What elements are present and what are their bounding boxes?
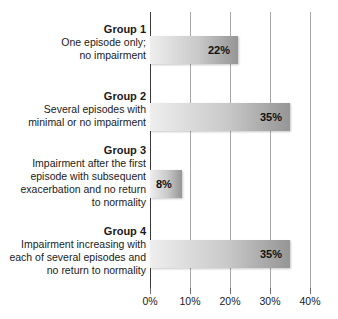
x-axis: 0% 10% 20% 30% 40% [0, 288, 338, 319]
tick-label-30: 30% [250, 295, 290, 307]
tick-mark-40 [310, 288, 311, 294]
category-desc-group-3-line-2: episode with subsequent [0, 170, 146, 183]
bars-layer: 22% 35% 8% 35% [150, 12, 310, 288]
tick-mark-10 [190, 288, 191, 294]
tick-label-40: 40% [290, 295, 330, 307]
tick-label-0: 0% [130, 295, 170, 307]
category-desc-group-4-line-3: no return to normality [0, 264, 146, 277]
category-label-group-3: Group 3 Impairment after the first episo… [0, 143, 146, 209]
category-title-group-2: Group 2 [0, 89, 146, 103]
bar-value-group-3: 8% [156, 170, 172, 198]
category-desc-group-1-line-1: One episode only; [0, 36, 146, 49]
category-label-group-2: Group 2 Several episodes with minimal or… [0, 89, 146, 129]
tick-mark-30 [270, 288, 271, 294]
bar-value-group-4: 35% [260, 240, 282, 268]
category-label-group-4: Group 4 Impairment increasing with each … [0, 224, 146, 277]
tick-label-10: 10% [170, 295, 210, 307]
plot-area: 22% 35% 8% 35% [150, 12, 310, 288]
bar-chart: 22% 35% 8% 35% Group 1 One episode only;… [0, 0, 338, 319]
category-desc-group-4-line-2: each of several episodes and [0, 251, 146, 264]
gridline-40 [310, 12, 311, 288]
category-label-group-1: Group 1 One episode only; no impairment [0, 22, 146, 62]
tick-label-20: 20% [210, 295, 250, 307]
bar-value-group-1: 22% [208, 36, 230, 64]
tick-mark-20 [230, 288, 231, 294]
bar-value-group-2: 35% [260, 103, 282, 131]
category-desc-group-4-line-1: Impairment increasing with [0, 238, 146, 251]
category-labels: Group 1 One episode only; no impairment … [0, 0, 146, 319]
category-desc-group-2-line-1: Several episodes with [0, 103, 146, 116]
category-title-group-1: Group 1 [0, 22, 146, 36]
category-desc-group-1-line-2: no impairment [0, 49, 146, 62]
category-desc-group-2-line-2: minimal or no impairment [0, 116, 146, 129]
tick-mark-0 [150, 288, 151, 294]
category-desc-group-3-line-4: to normality [0, 196, 146, 209]
category-desc-group-3-line-3: exacerbation and no return [0, 183, 146, 196]
category-title-group-3: Group 3 [0, 143, 146, 157]
category-desc-group-3-line-1: Impairment after the first [0, 157, 146, 170]
category-title-group-4: Group 4 [0, 224, 146, 238]
